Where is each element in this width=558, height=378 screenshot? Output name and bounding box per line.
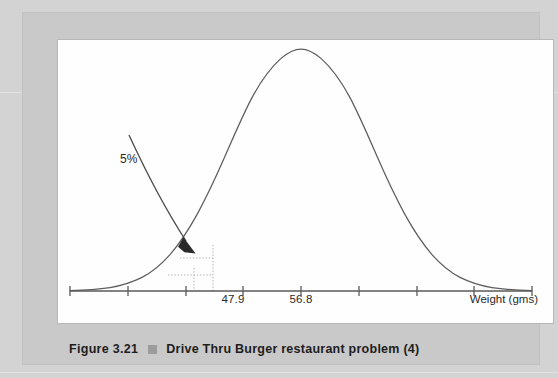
x-axis-label-critical-value: 47.9 — [198, 293, 268, 305]
scan-seam-bottom — [0, 372, 558, 373]
annotation-arrow — [129, 135, 196, 255]
figure-frame: 47.9 56.8 Weight (gms) 5% Figure 3.21 Dr… — [22, 12, 540, 365]
x-axis-title: Weight (gms) — [378, 293, 538, 305]
figure-number: Figure 3.21 — [69, 342, 138, 356]
figure-caption-text: Drive Thru Burger restaurant problem (4) — [166, 342, 419, 356]
page-background: 47.9 56.8 Weight (gms) 5% Figure 3.21 Dr… — [0, 0, 558, 378]
normal-distribution-chart — [58, 40, 553, 323]
normal-curve — [70, 49, 532, 291]
x-axis-label-mean: 56.8 — [266, 293, 336, 305]
tail-percent-annotation-label: 5% — [120, 152, 138, 166]
chart-panel: 47.9 56.8 Weight (gms) 5% — [57, 39, 554, 324]
figure-caption: Figure 3.21 Drive Thru Burger restaurant… — [69, 338, 419, 360]
square-bullet-icon — [148, 345, 157, 354]
